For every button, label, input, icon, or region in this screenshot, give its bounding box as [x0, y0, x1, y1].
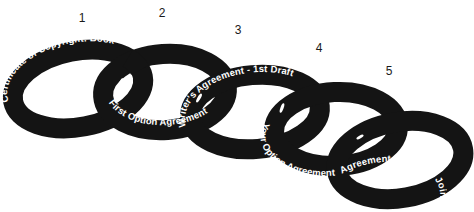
link-2-number: 2	[159, 6, 166, 20]
link-5-number: 5	[386, 64, 393, 78]
link-1-overlap	[128, 58, 140, 70]
link-4-number: 4	[316, 41, 323, 55]
chain-diagram: 1 2 3 4 5 Certificate of Copyright: Book…	[0, 0, 474, 212]
link-3-number: 3	[235, 23, 242, 37]
link-1-number: 1	[79, 11, 86, 25]
